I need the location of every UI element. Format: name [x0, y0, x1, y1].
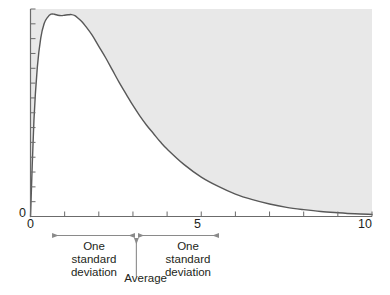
average-label: Average [105, 272, 167, 285]
shaded-area-above-curve [31, 9, 373, 217]
x-tick-label-5: 5 [194, 218, 201, 231]
x-tick-label-10: 10 [358, 218, 372, 231]
x-axis-ticks [31, 212, 373, 217]
sd-left-label-line2: standard [58, 253, 130, 266]
chart-figure: 0 5 10 0 One standard deviation One stan… [0, 0, 390, 295]
x-tick-label-0: 0 [27, 218, 34, 231]
sd-right-label-line1: One [152, 240, 224, 253]
sd-left-label-line1: One [58, 240, 130, 253]
sd-right-label-line2: standard [152, 253, 224, 266]
y-tick-label-0: 0 [19, 207, 26, 220]
